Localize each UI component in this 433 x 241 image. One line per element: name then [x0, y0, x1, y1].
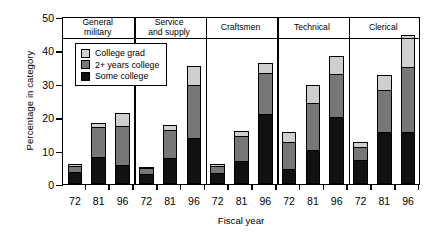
x-axis-tick-label: 96: [259, 195, 271, 207]
legend-swatch-some-college: [81, 72, 90, 81]
group-separator: [349, 17, 351, 184]
y-axis-tick-label: 40: [42, 45, 54, 57]
bar-segment-grad: [402, 36, 415, 68]
bar-segment-some: [92, 158, 105, 183]
y-axis-tick: [56, 185, 63, 186]
x-axis-title: Fiscal year: [63, 215, 419, 226]
group-header-clerical: Clerical: [348, 17, 419, 39]
bar-segment-some: [330, 118, 343, 183]
bar-segment-grad: [378, 76, 391, 91]
bar-segment-some: [188, 139, 201, 183]
group-separator: [206, 17, 208, 184]
group-separator: [277, 17, 279, 184]
group-header-label: Clerical: [369, 23, 398, 33]
bar-segment-grad: [307, 86, 320, 104]
group-header-service-and-supply: Serviceand supply: [133, 17, 204, 39]
y-axis-tick: [56, 118, 63, 119]
bar-segment-some: [140, 175, 153, 183]
y-axis-tick-label: 30: [42, 79, 54, 91]
x-axis-tick: [299, 184, 301, 190]
x-axis-tick-label: 96: [331, 195, 343, 207]
bar-segment-some: [235, 162, 248, 183]
bar-craftsmen-96: [258, 63, 273, 184]
bar-segment-two: [307, 104, 320, 150]
y-axis-tick: [56, 51, 63, 52]
x-axis-tick-label: 81: [164, 195, 176, 207]
bar-clerical-72: [353, 142, 368, 184]
bar-service-and-supply-72: [139, 167, 154, 184]
group-header-label: Serviceand supply: [148, 18, 190, 37]
bar-general-military-81: [91, 123, 106, 184]
group-header-label: Craftsmen: [221, 23, 261, 33]
bar-segment-two: [259, 74, 272, 115]
legend-item-college-grad: College grad: [81, 48, 159, 58]
x-axis-tick-label: 72: [140, 195, 152, 207]
bar-segment-two: [69, 167, 82, 174]
y-axis-tick-label: 50: [42, 12, 54, 24]
x-axis-tick-label: 72: [212, 195, 224, 207]
legend-label-some-college: Some college: [95, 71, 148, 81]
bar-craftsmen-72: [210, 164, 225, 184]
bar-segment-grad: [116, 114, 129, 128]
legend-item-some-college: Some college: [81, 71, 159, 81]
bar-general-military-72: [68, 164, 83, 184]
y-axis-tick: [56, 152, 63, 153]
y-axis-tick-label: 10: [42, 146, 54, 158]
group-header-label: Technical: [294, 23, 330, 33]
x-axis-tick: [346, 184, 348, 190]
y-axis-title: Percentage in category: [24, 16, 35, 186]
x-axis-tick: [156, 184, 158, 190]
x-axis-tick: [275, 184, 277, 190]
chart-legend: College grad 2+ years college Some colle…: [75, 43, 167, 86]
bar-segment-two: [211, 167, 224, 175]
bar-segment-some: [116, 166, 129, 183]
bar-segment-two: [92, 128, 105, 157]
x-axis-tick: [418, 184, 420, 190]
bar-segment-some: [378, 133, 391, 183]
bar-clerical-81: [377, 75, 392, 184]
bar-segment-some: [164, 159, 177, 184]
bar-segment-two: [378, 91, 391, 133]
x-axis-tick-label: 96: [402, 195, 414, 207]
bar-general-military-96: [115, 113, 130, 184]
x-axis-tick: [323, 184, 325, 190]
bar-segment-two: [354, 148, 367, 162]
bar-service-and-supply-96: [187, 66, 202, 184]
x-axis-tick-label: 81: [236, 195, 248, 207]
y-axis-tick-label: 20: [42, 112, 54, 124]
bar-technical-72: [282, 132, 297, 184]
x-axis-tick: [108, 184, 110, 190]
legend-swatch-two-plus-years: [81, 60, 90, 69]
x-axis-tick: [227, 184, 229, 190]
bar-segment-two: [188, 86, 201, 139]
group-header-band: GeneralmilitaryServiceand supplyCraftsme…: [62, 17, 420, 39]
x-axis-tick-label: 81: [307, 195, 319, 207]
x-axis-tick: [370, 184, 372, 190]
group-header-craftsmen: Craftsmen: [205, 17, 276, 39]
bar-technical-81: [306, 85, 321, 184]
bar-craftsmen-81: [234, 131, 249, 184]
x-axis-tick-label: 72: [355, 195, 367, 207]
x-axis-tick: [180, 184, 182, 190]
x-axis-tick: [204, 184, 206, 190]
bar-segment-some: [307, 151, 320, 183]
legend-label-two-plus-years: 2+ years college: [95, 60, 159, 70]
bar-technical-96: [329, 56, 344, 184]
x-axis-tick: [85, 184, 87, 190]
bar-segment-grad: [283, 133, 296, 143]
group-header-general-military: Generalmilitary: [62, 17, 133, 39]
bar-segment-two: [235, 137, 248, 162]
bar-service-and-supply-81: [163, 125, 178, 184]
bar-segment-some: [69, 173, 82, 183]
bar-segment-grad: [188, 67, 201, 86]
bar-segment-some: [402, 133, 415, 183]
group-header-technical: Technical: [276, 17, 347, 39]
bar-segment-two: [283, 143, 296, 169]
chart-container: Percentage in category Fiscal year 01020…: [0, 0, 433, 241]
x-axis-tick: [394, 184, 396, 190]
y-axis-tick: [56, 85, 63, 86]
bar-segment-some: [211, 174, 224, 183]
bar-segment-two: [330, 75, 343, 118]
bar-segment-two: [402, 68, 415, 132]
bar-segment-some: [354, 161, 367, 183]
